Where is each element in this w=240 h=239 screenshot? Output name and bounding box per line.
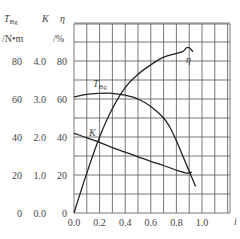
- y-tick-label: 20: [57, 170, 67, 181]
- y-tick-label: 4.0: [34, 56, 47, 67]
- x-tick-label: 0.4: [119, 217, 132, 228]
- y-tick-label: 0.0: [34, 208, 47, 219]
- y-tick-label: 2.0: [34, 132, 47, 143]
- y-tick-label: 60: [12, 94, 22, 105]
- x-tick-label: 0.0: [68, 217, 81, 228]
- y-tick-label: 3.0: [34, 94, 47, 105]
- chart: 00.00201.020402.040603.060804.0800.00.20…: [0, 0, 240, 239]
- y-tick-label: 60: [57, 94, 67, 105]
- curve-label-k: K: [88, 127, 97, 138]
- y-axis-label-torque: TBg: [4, 13, 18, 26]
- y-tick-label: 20: [12, 170, 22, 181]
- y-tick-label: 0: [17, 208, 22, 219]
- x-axis-label: i: [234, 216, 237, 227]
- y-tick-label: 40: [12, 132, 22, 143]
- x-tick-label: 1.0: [196, 217, 209, 228]
- y-axis-label-k: K: [41, 13, 50, 24]
- y-tick-label: 1.0: [34, 170, 47, 181]
- y-axis-label-eta: η: [60, 13, 65, 24]
- y-axis-unit-torque: /N•m: [2, 33, 24, 44]
- y-tick-label: 80: [57, 56, 67, 67]
- curve-k: [74, 133, 192, 173]
- y-axis-unit-eta: /%: [53, 33, 64, 44]
- curve-label-eta: η: [186, 54, 191, 65]
- y-tick-label: 0: [62, 208, 67, 219]
- tick-labels: 00.00201.020402.040603.060804.0800.00.20…: [12, 56, 208, 228]
- x-tick-label: 0.8: [170, 217, 183, 228]
- y-tick-label: 40: [57, 132, 67, 143]
- grid: [74, 23, 230, 213]
- y-tick-label: 80: [12, 56, 22, 67]
- x-tick-label: 0.6: [145, 217, 158, 228]
- x-tick-label: 0.2: [93, 217, 106, 228]
